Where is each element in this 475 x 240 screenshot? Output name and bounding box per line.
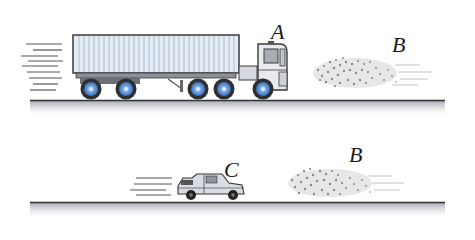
wheel-icon bbox=[188, 79, 209, 100]
truck-speed-lines-icon bbox=[21, 44, 63, 90]
top-road bbox=[30, 101, 445, 118]
top-scene bbox=[21, 35, 445, 117]
label-car-c: C bbox=[224, 159, 239, 181]
particle-cloud-top bbox=[313, 57, 432, 88]
bottom-road bbox=[30, 203, 445, 220]
car-speed-lines-icon bbox=[130, 178, 172, 195]
label-cloud-b-bottom: B bbox=[349, 144, 362, 166]
wheel-icon bbox=[214, 79, 235, 100]
label-truck-a: A bbox=[271, 21, 284, 43]
label-cloud-b-top: B bbox=[392, 34, 405, 56]
wheel-icon bbox=[81, 79, 102, 100]
wheel-icon bbox=[116, 79, 137, 100]
wheel-icon bbox=[253, 79, 274, 100]
particle-cloud-bottom bbox=[288, 168, 404, 197]
